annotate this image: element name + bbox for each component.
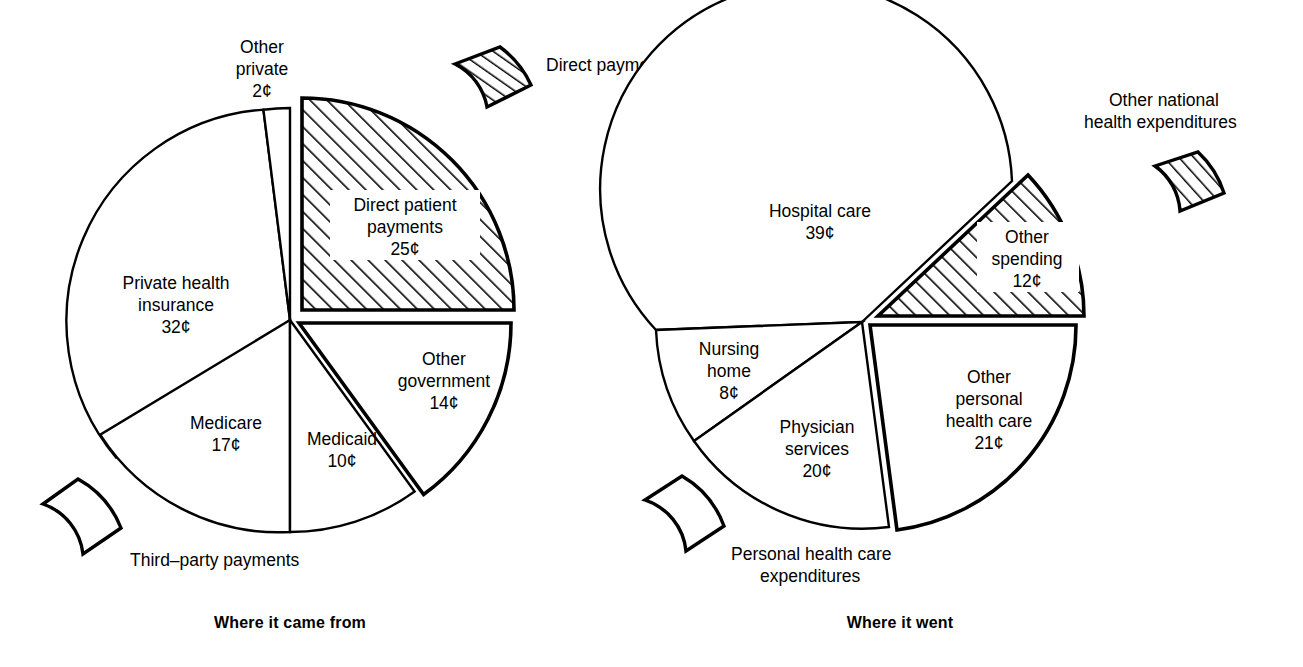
label-other-spending-value: 12¢ xyxy=(1012,271,1041,291)
label-nursing-home-line2: home xyxy=(707,361,751,381)
label-hospital-care-value: 39¢ xyxy=(805,223,834,243)
label-nursing-home-line1: Nursing xyxy=(699,339,759,359)
label-medicare-value: 17¢ xyxy=(211,435,240,455)
label-direct-patient-payments-line2: payments xyxy=(367,217,443,237)
label-physician-services-value: 20¢ xyxy=(802,461,831,481)
label-direct-patient-payments-value: 25¢ xyxy=(390,239,419,259)
label-private-health-insurance-line2: insurance xyxy=(138,295,214,315)
figure-root: Other private 2¢ Private health insuranc… xyxy=(0,0,1303,667)
label-other-personal-health-care-line3: health care xyxy=(946,411,1033,431)
key-label-personal-health-line2: expenditures xyxy=(760,566,860,586)
key-label-other-national-line1: Other national xyxy=(1109,90,1219,110)
label-other-private-value: 2¢ xyxy=(252,81,271,101)
label-other-spending-line2: spending xyxy=(991,249,1062,269)
label-other-spending-line1: Other xyxy=(1005,227,1049,247)
label-physician-services-line2: services xyxy=(785,439,849,459)
key-label-third-party-payments: Third–party payments xyxy=(130,550,299,570)
label-private-health-insurance-value: 32¢ xyxy=(161,317,190,337)
label-private-health-insurance-line1: Private health xyxy=(122,273,229,293)
label-other-personal-health-care-line1: Other xyxy=(967,367,1011,387)
key-label-personal-health-line1: Personal health care xyxy=(731,544,892,564)
label-physician-services-line1: Physician xyxy=(780,417,855,437)
label-medicaid-line1: Medicaid xyxy=(307,429,377,449)
label-other-personal-health-care-line2: personal xyxy=(955,389,1022,409)
label-other-private-line2: private xyxy=(236,59,289,79)
label-other-private-line1: Other xyxy=(240,37,284,57)
right-panel-title: Where it went xyxy=(847,614,954,631)
label-medicaid-value: 10¢ xyxy=(327,451,356,471)
label-other-government-line2: government xyxy=(398,371,491,391)
label-other-government-value: 14¢ xyxy=(429,393,458,413)
label-other-personal-health-care-value: 21¢ xyxy=(974,433,1003,453)
label-medicare-line1: Medicare xyxy=(190,413,262,433)
health-dollar-pie-figure: Other private 2¢ Private health insuranc… xyxy=(0,0,1303,667)
key-label-other-national-line2: health expenditures xyxy=(1084,112,1237,132)
label-nursing-home-value: 8¢ xyxy=(719,383,738,403)
left-panel-title: Where it came from xyxy=(214,614,366,631)
label-direct-patient-payments-line1: Direct patient xyxy=(353,195,456,215)
label-hospital-care-line1: Hospital care xyxy=(769,201,871,221)
label-other-government-line1: Other xyxy=(422,349,466,369)
